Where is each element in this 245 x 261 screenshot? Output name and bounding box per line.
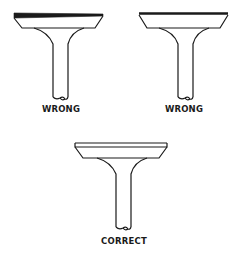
valve-figure-correct bbox=[70, 136, 180, 236]
valve-drawing-icon bbox=[70, 136, 180, 236]
figure-label-correct: CORRECT bbox=[101, 236, 147, 246]
valve-figure-wrong-knife-edge bbox=[132, 6, 242, 106]
valve-drawing-icon bbox=[132, 6, 242, 106]
figure-label-wrong-2: WRONG bbox=[165, 104, 203, 114]
valve-drawing-icon bbox=[8, 6, 118, 106]
valve-figure-wrong-tapered bbox=[8, 6, 118, 106]
figure-label-wrong-1: WRONG bbox=[42, 104, 80, 114]
